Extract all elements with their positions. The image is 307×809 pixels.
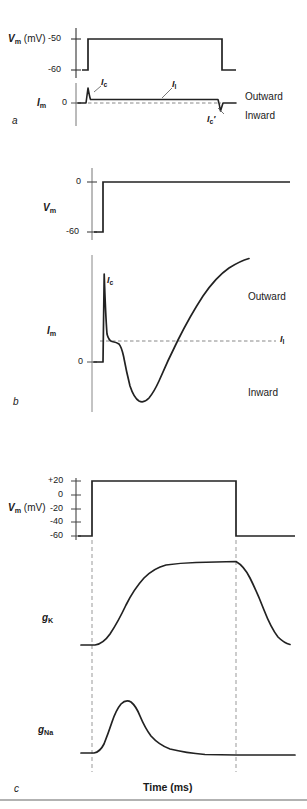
panel-a-current-tick-label-zero: 0 [62,98,67,107]
panel-c-tick-label-m40: -40 [50,517,63,526]
panel-a-icprime-label: Ic′ [207,115,215,124]
panel-b-ic-label: Ic [107,276,113,285]
panel-a-ic-leader [94,86,101,92]
panel-b-current-tick-label-zero: 0 [78,357,83,366]
voltage-clamp-figure: Vm (mV) -50 -60 Im 0 Ic Il Ic′ Outward I… [0,0,307,809]
panel-b-voltage-axis-label: Vm [43,203,56,213]
panel-a-tick-label-m60: -60 [48,65,61,74]
panel-b-id-label: b [13,397,19,407]
panel-a-current-axis-label: Im [37,98,46,108]
panel-c-tick-label-m60: -60 [50,531,63,540]
panel-a-ic-label: Ic [101,78,107,87]
panel-a-outward-label: Outward [245,92,283,102]
panel-c-gna-label: gNa [38,725,53,735]
panel-a-il-label: Il [172,80,176,89]
panel-b-voltage-trace [94,182,290,232]
panel-b-current-trace [94,259,249,402]
panel-c-id-label: c [14,784,19,794]
panel-c-gna-trace [81,701,295,755]
panel-c-tick-label-m20: -20 [50,504,63,513]
panel-c-voltage-trace [78,481,295,536]
panel-a-voltage-axis-label: Vm (mV) [8,34,46,44]
x-axis-label: Time (ms) [143,782,192,793]
panel-a-inward-label: Inward [245,111,275,121]
panel-b-inward-label: Inward [248,388,278,398]
panel-a-voltage-trace [82,39,236,70]
panel-a-il-leader [162,88,172,98]
panel-c-gk-label: gK [42,613,53,623]
panel-c-tick-label-0: 0 [58,490,63,499]
panel-b-il-label: Il [280,335,284,344]
figure-canvas [0,0,307,809]
panel-c-tick-label-p20: +20 [48,476,63,485]
panel-c-voltage-axis-label: Vm (mV) [8,503,46,513]
panel-c-gk-trace [81,562,290,646]
panel-a-current-trace [78,88,236,111]
panel-b-current-axis-label: Im [47,326,56,336]
panel-a-tick-label-m50: -50 [48,34,61,43]
panel-b-tick-label-zero: 0 [76,177,81,186]
panel-b-tick-label-m60: -60 [66,227,79,236]
panel-a-id-label: a [12,116,18,126]
panel-b-outward-label: Outward [248,292,286,302]
